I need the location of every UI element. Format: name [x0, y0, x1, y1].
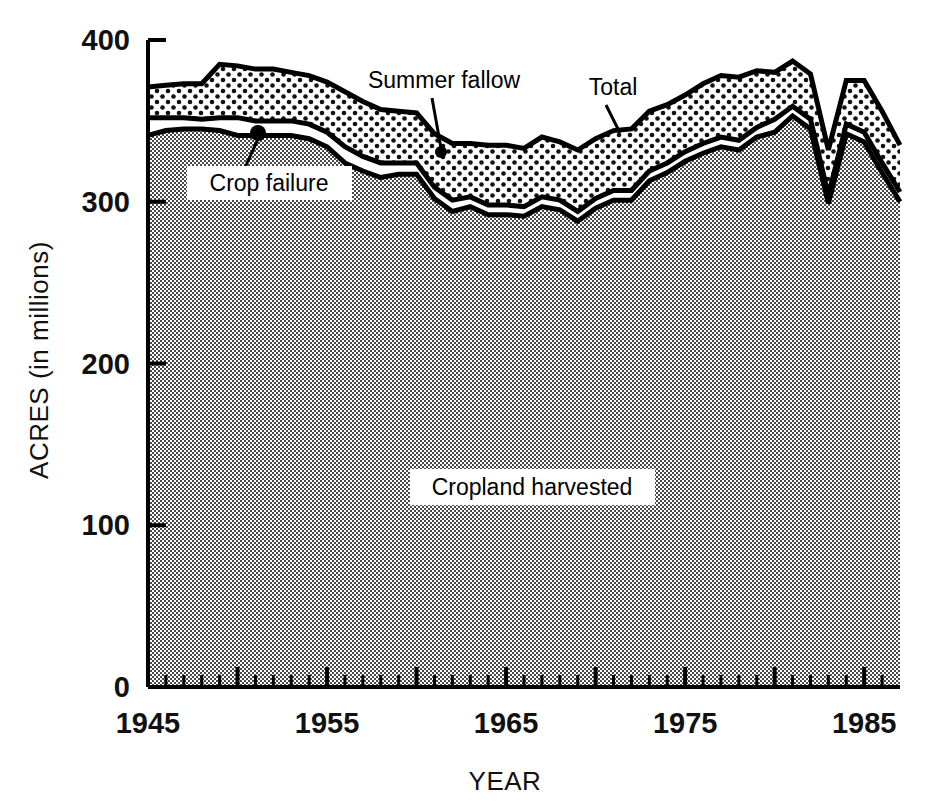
x-tick-labels: 19451955196519751985: [116, 707, 897, 739]
x-tick-label-1985: 1985: [832, 707, 897, 739]
cropland-harvested-label: Cropland harvested: [432, 474, 633, 500]
summer-fallow-label: Summer fallow: [368, 67, 520, 93]
crop-failure-label: Crop failure: [210, 170, 329, 196]
annotation-total: Total: [589, 74, 638, 133]
crop-failure-marker-dot: [250, 125, 266, 141]
total-label: Total: [589, 74, 638, 100]
summer-fallow-marker-dot: [435, 146, 447, 158]
y-axis-title: ACRES (in millions): [24, 241, 54, 479]
plot-areas: [148, 61, 900, 687]
x-tick-label-1955: 1955: [295, 707, 360, 739]
x-axis-title: YEAR: [469, 766, 542, 796]
area-chart: 0100200300400 19451955196519751985 ACRES…: [0, 0, 925, 808]
x-tick-label-1975: 1975: [653, 707, 718, 739]
x-tick-label-1965: 1965: [474, 707, 539, 739]
y-tick-label-200: 200: [82, 348, 130, 380]
annotation-cropland-harvested: Cropland harvested: [410, 469, 655, 505]
y-tick-label-400: 400: [82, 24, 130, 56]
y-tick-label-0: 0: [114, 671, 130, 703]
y-tick-label-300: 300: [82, 186, 130, 218]
x-tick-label-1945: 1945: [116, 707, 181, 739]
y-tick-labels: 0100200300400: [82, 24, 130, 703]
y-tick-label-100: 100: [82, 509, 130, 541]
chart-figure: 0100200300400 19451955196519751985 ACRES…: [0, 0, 925, 808]
